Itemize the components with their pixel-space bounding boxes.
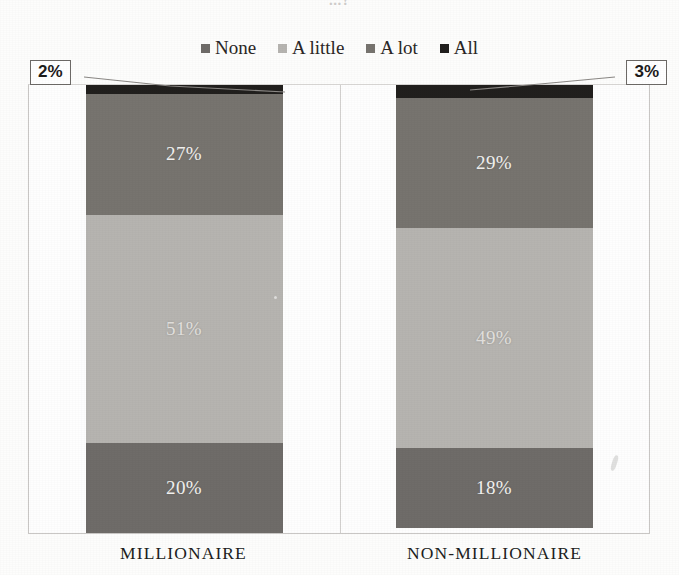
callout-millionaire-all: 2% (30, 60, 71, 85)
bar-segment-label-non-millionaire-a-lot: 29% (476, 152, 512, 174)
bar-segment-label-non-millionaire-a-little: 49% (476, 327, 512, 349)
chart-title: ...? (0, 0, 679, 6)
legend-swatch-none (201, 44, 210, 53)
bar-segment-millionaire-a-little[interactable]: 51% (86, 215, 283, 443)
bar-segment-non-millionaire-all[interactable]: 3% (396, 85, 593, 98)
x-axis-label-non-millionaire: NON-MILLIONAIRE (339, 543, 650, 564)
legend-label-all: All (454, 38, 478, 57)
bar-segment-non-millionaire-a-little[interactable]: 49% (396, 228, 593, 448)
legend-swatch-a-little (278, 44, 287, 53)
x-axis-label-millionaire: MILLIONAIRE (28, 543, 339, 564)
legend-label-none: None (215, 38, 256, 57)
x-axis-category-labels: MILLIONAIRE NON-MILLIONAIRE (28, 543, 650, 564)
bar-segment-label-millionaire-a-little: 51% (166, 318, 202, 340)
stacked-bar-non-millionaire: 3% 29% 49% 18% (396, 85, 593, 533)
bar-segment-non-millionaire-none[interactable]: 18% (396, 448, 593, 529)
legend-label-a-lot: A lot (380, 38, 417, 57)
chart-page: ...? None A little A lot All 2% 3% (0, 0, 679, 575)
legend-label-a-little: A little (292, 38, 344, 57)
bar-segment-non-millionaire-a-lot[interactable]: 29% (396, 98, 593, 228)
bar-segment-label-millionaire-a-lot: 27% (166, 143, 202, 165)
bar-column-millionaire: 2% 27% 51% 20% (29, 85, 339, 533)
legend-item-a-lot[interactable]: A lot (366, 38, 417, 57)
legend-item-none[interactable]: None (201, 38, 256, 57)
legend-item-a-little[interactable]: A little (278, 38, 344, 57)
legend-item-all[interactable]: All (440, 38, 478, 57)
bar-segment-millionaire-a-lot[interactable]: 27% (86, 94, 283, 215)
bar-column-non-millionaire: 3% 29% 49% 18% (339, 85, 649, 533)
stacked-bar-millionaire: 2% 27% 51% 20% (86, 85, 283, 533)
bar-segment-millionaire-none[interactable]: 20% (86, 443, 283, 533)
plot-area: 2% 27% 51% 20% 3% (28, 84, 650, 534)
callout-non-millionaire-all: 3% (626, 60, 667, 85)
bar-segment-label-non-millionaire-none: 18% (476, 477, 512, 499)
chart-legend: None A little A lot All (0, 38, 679, 57)
bar-group: 2% 27% 51% 20% 3% (29, 85, 649, 533)
legend-swatch-all (440, 44, 449, 53)
bar-segment-label-millionaire-none: 20% (166, 477, 202, 499)
legend-swatch-a-lot (366, 44, 375, 53)
bar-segment-millionaire-all[interactable]: 2% (86, 85, 283, 94)
